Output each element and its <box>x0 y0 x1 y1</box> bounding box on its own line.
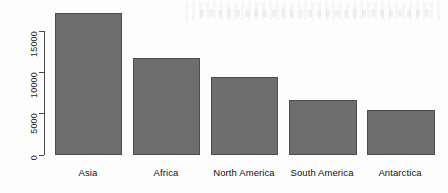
x-axis-label-africa: Africa <box>126 167 206 178</box>
bar-north-america <box>211 77 278 155</box>
y-axis-tick-3 <box>39 31 44 32</box>
y-axis-tick-text-1: 5000 <box>29 113 39 134</box>
plot-area <box>48 8 440 155</box>
bar-africa <box>133 58 200 155</box>
bar-chart: 0 5000 10000 15000 Asia Africa North Ame… <box>0 0 448 193</box>
bar-south-america <box>289 100 356 155</box>
x-axis-label-antarctica: Antarctica <box>360 167 440 178</box>
x-axis-label-south-america: South America <box>282 167 362 178</box>
y-axis-tick-text-3: 15000 <box>29 31 39 57</box>
y-axis-tick-1 <box>39 113 44 114</box>
y-axis-tick-label-1: 5000 <box>0 108 34 118</box>
x-axis-label-asia: Asia <box>48 167 128 178</box>
x-axis-label-north-america: North America <box>204 167 284 178</box>
y-axis-line <box>44 31 45 155</box>
bar-antarctica <box>367 110 434 155</box>
bar-asia <box>55 13 122 155</box>
y-axis-tick-label-2: 10000 <box>0 67 34 77</box>
y-axis-tick-label-3: 15000 <box>0 26 34 36</box>
y-axis-tick-label-0: 0 <box>0 150 34 160</box>
y-axis-tick-2 <box>39 72 44 73</box>
y-axis-tick-0 <box>39 155 44 156</box>
y-axis-tick-text-2: 10000 <box>29 72 39 98</box>
y-axis-tick-text-0: 0 <box>29 155 39 160</box>
